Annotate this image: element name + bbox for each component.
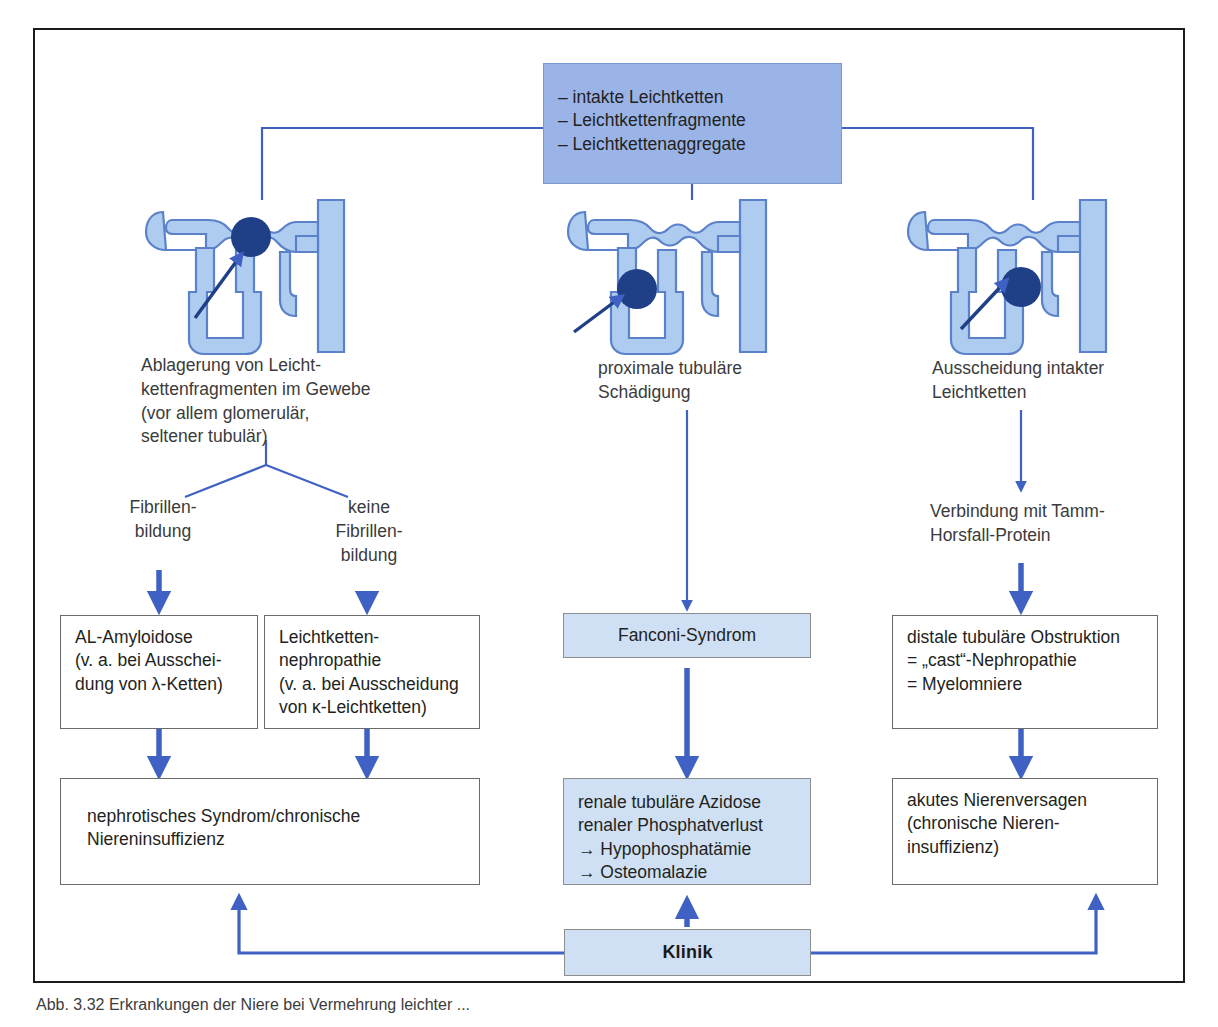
intermediate-box-fanconi: Fanconi-Syndrom: [563, 613, 811, 658]
deposition-marker-left: [231, 217, 271, 257]
branch-label-fibrillenbildung: Fibrillen- bildung: [117, 496, 209, 544]
klinik-box: Klinik: [564, 929, 811, 976]
outcome-box-right: akutes Nierenversagen (chronische Nieren…: [892, 778, 1158, 885]
nephron-diagram-middle: [568, 200, 766, 354]
link-label-tamm-horsfall: Verbindung mit Tamm- Horsfall-Protein: [930, 500, 1165, 548]
outcome-box-left: nephrotisches Syndrom/chronische Niereni…: [60, 778, 480, 885]
klinik-label: Klinik: [662, 940, 712, 964]
outcome-box-middle: renale tubuläre Azidose renaler Phosphat…: [563, 778, 811, 885]
mechanism-label-right: Ausscheidung intakter Leichtketten: [932, 357, 1162, 405]
source-box-light-chains: – intakte Leichtketten – Leichtkettenfra…: [543, 63, 842, 184]
result-box-al-amyloidose: AL-Amyloidose (v. a. bei Ausschei- dung …: [60, 615, 258, 729]
intermediate-box-cast-nephropathy: distale tubuläre Obstruktion = „cast“-Ne…: [892, 615, 1158, 729]
mechanism-label-middle: proximale tubuläre Schädigung: [598, 357, 818, 405]
result-box-leichtkettennephropathie: Leichtketten- nephropathie (v. a. bei Au…: [264, 615, 480, 729]
nephron-diagram-left: [146, 200, 344, 354]
figure-caption: Abb. 3.32 Erkrankungen der Niere bei Ver…: [36, 996, 476, 1022]
deposition-marker-right: [1001, 267, 1041, 307]
deposition-marker-middle: [617, 269, 657, 309]
nephron-diagram-right: [908, 200, 1106, 354]
figure-root: – intakte Leichtketten – Leichtkettenfra…: [0, 0, 1218, 1027]
mechanism-label-left: Ablagerung von Leicht- kettenfragmenten …: [141, 354, 406, 449]
branch-label-keine-fibrillenbildung: keine Fibrillen- bildung: [323, 496, 415, 567]
